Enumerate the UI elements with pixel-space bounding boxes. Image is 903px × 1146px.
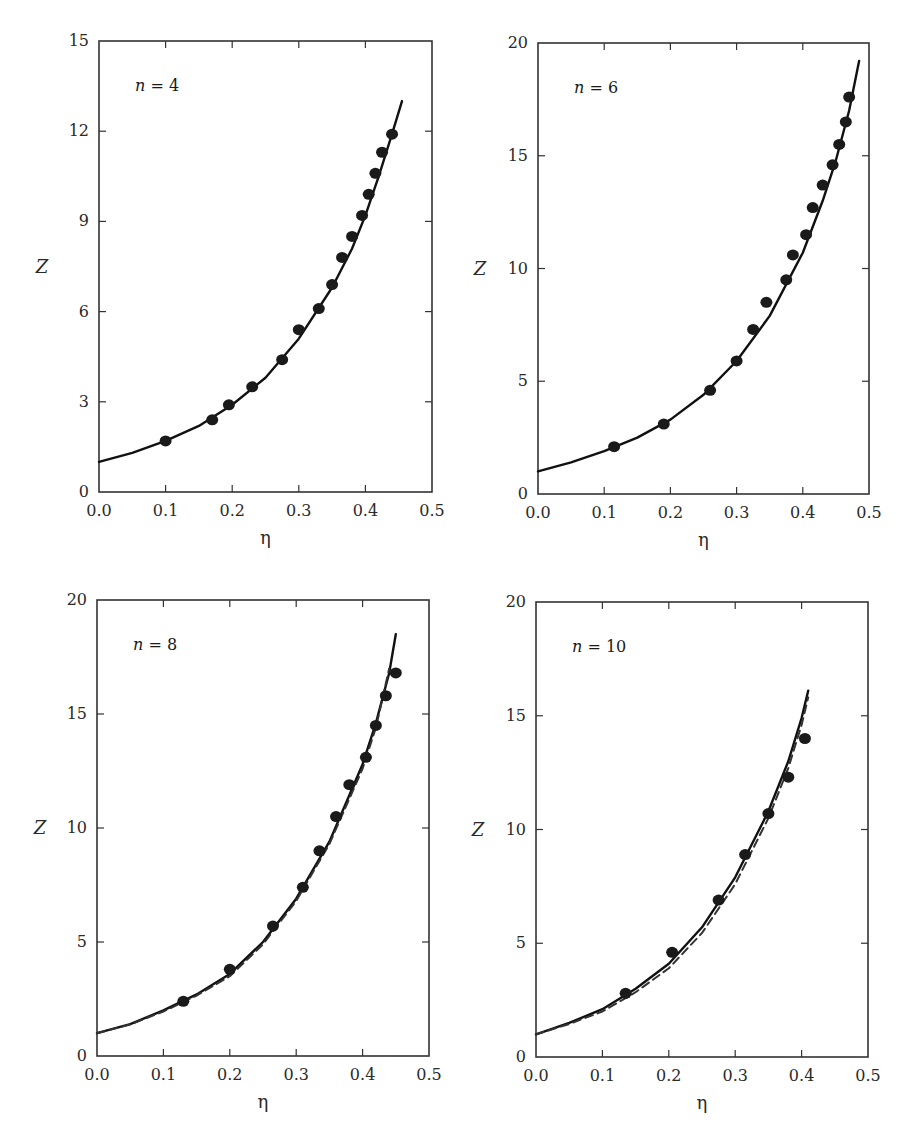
- x-tick-label: 0.0: [525, 503, 550, 522]
- y-tick-label: 15: [508, 146, 528, 165]
- data-point: [782, 772, 794, 783]
- data-point: [843, 92, 855, 103]
- y-tick-label: 6: [79, 302, 89, 321]
- x-tick-label: 0.5: [856, 503, 881, 522]
- data-point: [276, 354, 288, 365]
- x-tick-label: 0.3: [724, 503, 749, 522]
- x-tick-label: 0.1: [151, 1065, 176, 1084]
- data-point: [293, 324, 305, 335]
- y-tick-label: 5: [516, 933, 526, 952]
- y-tick-label: 10: [506, 820, 526, 839]
- data-point: [799, 733, 811, 744]
- y-tick-label: 0: [79, 482, 89, 501]
- y-tick-label: 15: [67, 704, 87, 723]
- data-point: [376, 147, 388, 158]
- x-tick-label: 0.1: [153, 501, 178, 520]
- plot-frame: [538, 43, 869, 494]
- y-tick-label: 0: [518, 484, 528, 503]
- data-point: [356, 210, 368, 221]
- x-tick-label: 0.2: [219, 501, 244, 520]
- dashed-curve: [536, 698, 808, 1035]
- x-tick-label: 0.5: [855, 1066, 880, 1085]
- x-tick-label: 0.0: [84, 1065, 109, 1084]
- x-axis-label: η: [698, 529, 709, 550]
- data-point: [840, 116, 852, 127]
- data-point: [224, 964, 236, 975]
- data-point: [360, 752, 372, 763]
- y-tick-label: 0: [516, 1047, 526, 1066]
- data-point: [731, 355, 743, 366]
- plot-frame: [97, 600, 429, 1056]
- data-point: [313, 303, 325, 314]
- data-point: [833, 139, 845, 150]
- panel-label: n = 8: [133, 635, 177, 654]
- data-point: [297, 882, 309, 893]
- y-tick-label: 15: [506, 706, 526, 725]
- x-tick-label: 0.4: [353, 501, 378, 520]
- x-axis-label: η: [697, 1092, 708, 1113]
- data-point: [380, 690, 392, 701]
- data-point: [666, 947, 678, 958]
- y-tick-label: 9: [79, 211, 89, 230]
- y-tick-label: 5: [77, 932, 87, 951]
- data-point: [346, 231, 358, 242]
- y-tick-label: 10: [67, 818, 87, 837]
- y-tick-label: 20: [506, 592, 526, 611]
- x-tick-label: 0.4: [789, 1066, 814, 1085]
- data-point: [313, 845, 325, 856]
- x-tick-label: 0.2: [217, 1065, 242, 1084]
- y-tick-label: 5: [518, 371, 528, 390]
- data-point: [800, 229, 812, 240]
- data-point: [160, 435, 172, 446]
- data-point: [177, 996, 189, 1007]
- data-point: [817, 180, 829, 191]
- data-point: [658, 419, 670, 430]
- panel-label: n = 6: [574, 78, 618, 97]
- data-point: [369, 168, 381, 179]
- x-tick-label: 0.3: [286, 501, 311, 520]
- y-tick-label: 12: [69, 121, 89, 140]
- data-point: [223, 399, 235, 410]
- x-tick-label: 0.0: [523, 1066, 548, 1085]
- data-point: [827, 159, 839, 170]
- data-point: [620, 988, 632, 999]
- y-tick-label: 3: [79, 392, 89, 411]
- x-tick-label: 0.2: [658, 503, 683, 522]
- data-point: [608, 441, 620, 452]
- solid-curve: [538, 61, 859, 471]
- y-axis-label: Z: [35, 256, 49, 277]
- data-point: [390, 667, 402, 678]
- data-point: [760, 297, 772, 308]
- y-tick-label: 15: [69, 31, 89, 50]
- data-point: [780, 274, 792, 285]
- dashed-curve: [97, 668, 389, 1033]
- data-point: [246, 381, 258, 392]
- plot-frame: [536, 602, 868, 1057]
- x-tick-label: 0.4: [350, 1065, 375, 1084]
- data-point: [739, 849, 751, 860]
- x-tick-label: 0.3: [722, 1066, 747, 1085]
- y-axis-label: Z: [471, 819, 485, 840]
- data-point: [330, 811, 342, 822]
- y-axis-label: Z: [473, 258, 487, 279]
- x-tick-label: 0.3: [283, 1065, 308, 1084]
- panel-n8: 0.00.10.20.30.40.505101520ηZn = 8: [33, 590, 442, 1112]
- y-tick-label: 0: [77, 1046, 87, 1065]
- data-point: [363, 189, 375, 200]
- data-point: [747, 324, 759, 335]
- x-tick-label: 0.0: [86, 501, 111, 520]
- panel-n4: 0.00.10.20.30.40.503691215ηZn = 4: [35, 31, 445, 548]
- data-point: [787, 249, 799, 260]
- x-tick-label: 0.4: [790, 503, 815, 522]
- data-point: [206, 414, 218, 425]
- data-point: [807, 202, 819, 213]
- panel-label: n = 4: [135, 76, 179, 95]
- data-point: [326, 279, 338, 290]
- x-axis-label: η: [260, 527, 271, 548]
- panel-label: n = 10: [572, 637, 626, 656]
- data-point: [762, 808, 774, 819]
- y-tick-label: 10: [508, 259, 528, 278]
- figure-canvas: 0.00.10.20.30.40.503691215ηZn = 4 0.00.1…: [0, 0, 903, 1146]
- data-point: [386, 129, 398, 140]
- x-tick-label: 0.5: [416, 1065, 441, 1084]
